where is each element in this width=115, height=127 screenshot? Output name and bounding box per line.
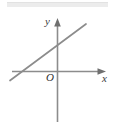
linear-graph-figure: y O x — [0, 0, 115, 127]
coordinate-plane-graphic — [0, 0, 115, 127]
x-axis-label: x — [102, 73, 107, 84]
origin-label: O — [46, 72, 54, 83]
y-axis-arrow-icon — [54, 18, 61, 27]
y-axis-label: y — [45, 16, 50, 27]
